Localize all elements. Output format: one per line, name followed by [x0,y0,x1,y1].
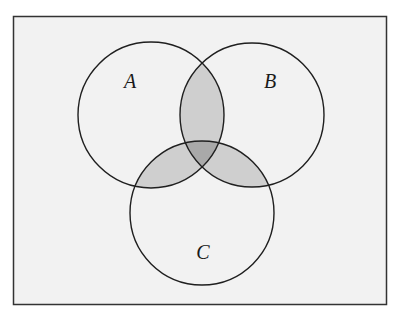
label-c: C [196,241,210,263]
label-b: B [264,70,276,92]
venn-diagram: A B C [0,0,397,318]
label-a: A [122,70,137,92]
